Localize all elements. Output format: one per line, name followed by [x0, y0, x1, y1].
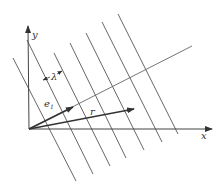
lambda-label: λ: [50, 71, 57, 82]
lambda-arrow-right-icon: [57, 71, 62, 74]
wavefront-diagram: x y e1 r λ: [0, 0, 221, 193]
y-axis: [28, 26, 29, 129]
x-axis-label: x: [201, 130, 207, 141]
wavefront-line: [70, 43, 126, 158]
unit-vector-e1: [29, 107, 73, 129]
wavefront-line: [27, 40, 93, 174]
diagram-canvas: x y e1 r λ: [0, 0, 221, 193]
e1-label: e1: [44, 98, 54, 110]
wavefront-lines: [13, 14, 178, 181]
wavefront-line: [102, 22, 162, 142]
r-label: r: [90, 106, 96, 117]
position-vector-r: [29, 109, 134, 129]
wavefront-line: [86, 33, 144, 150]
y-axis-label: y: [31, 29, 38, 40]
wavefront-line: [54, 53, 110, 166]
